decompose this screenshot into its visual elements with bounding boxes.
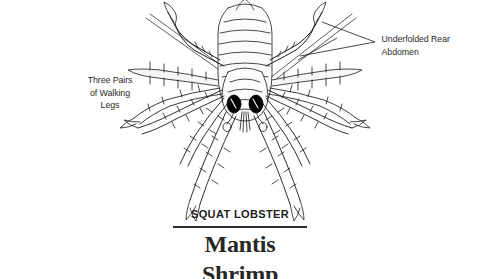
- species-title-wrap: Mantis Shrimp: [173, 226, 307, 279]
- right-cheliped: [266, 2, 326, 66]
- caption-block: SQUAT LOBSTER Mantis Shrimp: [0, 208, 480, 279]
- common-name-label: SQUAT LOBSTER: [10, 208, 471, 220]
- rear-abdomen-underfold: [222, 68, 268, 121]
- right-leg-tip: [350, 120, 366, 128]
- left-cheliped: [164, 2, 224, 66]
- leader-line-abdomen-lower: [300, 42, 375, 56]
- left-walking-leg-middle: [180, 98, 230, 166]
- right-walking-leg-lower: [254, 112, 304, 221]
- left-walking-leg-lower: [186, 112, 236, 221]
- species-name-title: Mantis Shrimp: [173, 228, 307, 279]
- left-leg-tip: [124, 120, 140, 128]
- leader-line-abdomen-upper: [322, 22, 375, 42]
- right-claw-tip: [314, 2, 327, 24]
- leader-lines: [298, 22, 375, 60]
- callout-rear-abdomen: Underfolded Rear Abdomen: [382, 33, 477, 58]
- left-claw-tip: [164, 2, 177, 24]
- right-walking-leg-middle: [260, 98, 310, 166]
- callout-walking-legs: Three Pairs of Walking Legs: [62, 74, 159, 112]
- right-walking-leg-upper: [266, 90, 366, 134]
- diagram-page: Three Pairs of Walking Legs Underfolded …: [0, 0, 480, 279]
